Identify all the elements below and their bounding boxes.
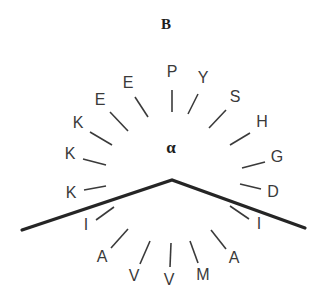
residue-label: K xyxy=(65,145,76,162)
residue-tick xyxy=(135,97,148,117)
center-alpha-label: α xyxy=(166,138,176,157)
residue-label: A xyxy=(229,249,240,266)
residue-tick xyxy=(230,133,250,145)
residue-tick xyxy=(83,159,106,165)
residue-tick xyxy=(96,207,114,220)
residue-label: E xyxy=(123,74,134,91)
residue-tick xyxy=(240,184,261,189)
residue-label: A xyxy=(97,248,108,265)
residue-tick xyxy=(111,229,128,248)
residue-label: H xyxy=(256,113,268,130)
residue-label: M xyxy=(196,266,209,283)
residue-tick xyxy=(84,186,106,190)
residue-label: Y xyxy=(198,69,209,86)
membrane-interface-chevron xyxy=(22,180,305,230)
helical-wheel-figure: B α EPYESKHKGKDIIAAVVM xyxy=(0,0,325,305)
panel-label-b: B xyxy=(161,16,171,32)
residue-tick xyxy=(140,241,150,264)
residue-label: D xyxy=(267,183,279,200)
residue-label: K xyxy=(73,114,84,131)
residue-tick-group xyxy=(83,90,265,267)
residue-tick xyxy=(190,241,198,263)
residue-tick xyxy=(90,132,112,145)
residue-tick xyxy=(188,94,198,114)
residue-tick xyxy=(110,112,128,131)
residue-tick xyxy=(209,110,226,128)
residue-tick xyxy=(170,243,171,267)
residue-label: K xyxy=(66,184,77,201)
residue-label: I xyxy=(84,216,88,233)
residue-label: P xyxy=(167,63,178,80)
residue-label: V xyxy=(129,267,140,284)
helical-wheel-canvas: B α EPYESKHKGKDIIAAVVM xyxy=(0,0,325,305)
residue-label: I xyxy=(257,215,261,232)
residue-tick xyxy=(242,162,265,168)
residue-label-group: EPYESKHKGKDIIAAVVM xyxy=(65,63,284,288)
residue-tick xyxy=(211,230,226,249)
residue-label: E xyxy=(95,91,106,108)
residue-label: V xyxy=(164,271,175,288)
residue-label: G xyxy=(271,148,283,165)
residue-label: S xyxy=(230,88,241,105)
